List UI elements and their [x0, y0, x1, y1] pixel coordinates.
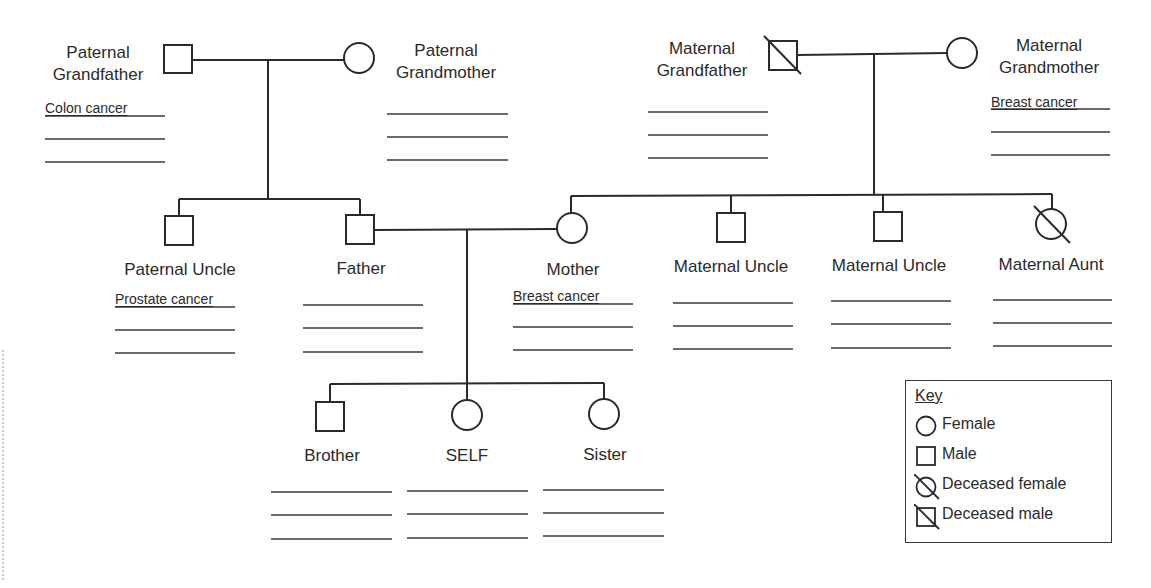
mother-label: Mother: [547, 259, 600, 281]
paternal-uncle-condition: Prostate cancer: [115, 291, 213, 307]
self-symbol: [452, 400, 482, 430]
maternal-grandmother-condition: Breast cancer: [991, 94, 1077, 110]
circle-icon: [914, 414, 938, 438]
paternal-uncle-label: Paternal Uncle: [124, 259, 236, 281]
paternal-grandmother-symbol: [344, 43, 374, 73]
label-line: Grandfather: [53, 64, 144, 86]
deceased-square-icon: [914, 504, 940, 530]
label-line: Paternal: [53, 42, 144, 64]
self-label: SELF: [446, 445, 489, 467]
sister-label: Sister: [583, 444, 626, 466]
label-line: Maternal: [657, 38, 748, 60]
label-line: Grandmother: [396, 62, 496, 84]
maternal-uncle-1-symbol: [717, 213, 745, 242]
deceased-slash: [1034, 206, 1070, 243]
paternal-uncle-symbol: [165, 216, 193, 245]
father-label: Father: [336, 258, 385, 280]
label-line: Paternal: [396, 40, 496, 62]
legend-label: Deceased male: [942, 505, 1053, 523]
paternal-grandfather-condition: Colon cancer: [45, 100, 128, 116]
paternal-grandfather-label: Paternal Grandfather: [53, 42, 144, 86]
square-icon: [914, 444, 938, 468]
brother-symbol: [316, 402, 344, 431]
label-line: Grandfather: [657, 60, 748, 82]
margin-edge-marks: [2, 350, 10, 580]
brother-label: Brother: [304, 445, 360, 467]
parents-marriage-line: [374, 229, 557, 230]
label-line: Maternal: [999, 35, 1099, 57]
legend-title: Key: [915, 387, 943, 405]
legend-label: Male: [942, 445, 977, 463]
legend-label: Deceased female: [942, 475, 1067, 493]
legend-item: Deceased female: [906, 474, 1111, 498]
maternal-sibship-line: [571, 194, 1052, 196]
legend-item: Deceased male: [906, 504, 1111, 528]
legend-label: Female: [942, 415, 995, 433]
maternal-uncle-2-symbol: [874, 212, 902, 241]
maternal-uncle-1-label: Maternal Uncle: [674, 256, 788, 278]
legend-item: Male: [906, 444, 1111, 468]
maternal-marriage-line: [797, 53, 948, 55]
legend-key: Key Female Male Deceased female Deceased…: [905, 380, 1112, 543]
maternal-aunt-label: Maternal Aunt: [999, 254, 1104, 276]
deceased-circle-icon: [914, 474, 940, 500]
maternal-grandmother-symbol: [947, 38, 977, 68]
father-symbol: [346, 215, 374, 244]
label-line: Grandmother: [999, 57, 1099, 79]
mother-condition: Breast cancer: [513, 288, 599, 304]
legend-item: Female: [906, 414, 1111, 438]
sister-symbol: [589, 399, 619, 429]
mother-symbol: [557, 213, 587, 243]
maternal-grandmother-label: Maternal Grandmother: [999, 35, 1099, 79]
maternal-uncle-2-label: Maternal Uncle: [832, 255, 946, 277]
paternal-grandfather-symbol: [164, 45, 192, 73]
maternal-grandfather-label: Maternal Grandfather: [657, 38, 748, 82]
paternal-grandmother-label: Paternal Grandmother: [396, 40, 496, 84]
